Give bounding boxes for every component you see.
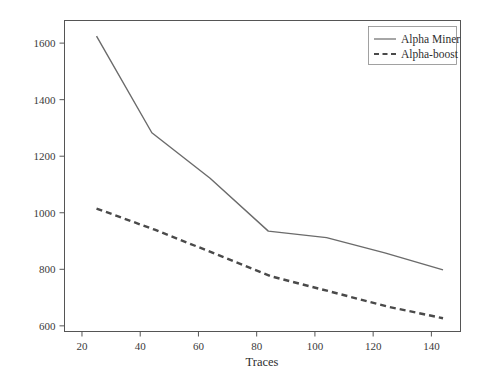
y-tick-label: 1400 (34, 94, 57, 106)
line-chart: 6008001000120014001600 20406080100120140… (0, 0, 484, 382)
legend-label-alpha-miner: Alpha Miner (401, 33, 460, 46)
y-tick-label: 1000 (34, 207, 57, 219)
chart-figure: 6008001000120014001600 20406080100120140… (0, 0, 484, 382)
y-tick-label: 1600 (34, 37, 57, 49)
x-tick-label: 100 (307, 340, 324, 352)
x-axis-title: Traces (246, 355, 279, 369)
chart-legend: Alpha Miner Alpha-boost (369, 27, 461, 65)
legend-label-alpha-boost: Alpha-boost (401, 48, 459, 61)
x-tick-label: 80 (251, 340, 263, 352)
x-tick-label: 120 (365, 340, 382, 352)
y-tick-label: 1200 (34, 150, 57, 162)
x-tick-label: 60 (193, 340, 205, 352)
y-tick-label: 800 (39, 263, 56, 275)
y-tick-label: 600 (39, 320, 56, 332)
x-tick-label: 140 (423, 340, 440, 352)
x-tick-label: 40 (135, 340, 147, 352)
x-tick-label: 20 (76, 340, 88, 352)
